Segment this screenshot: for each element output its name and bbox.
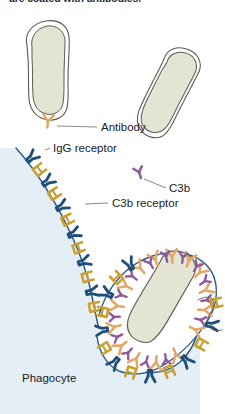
c3b-receptor — [48, 187, 61, 199]
c3b-receptor — [61, 214, 74, 226]
label-c3b: C3b — [169, 182, 190, 194]
bacterium-free-upper-left — [26, 21, 69, 129]
leader-c3b — [144, 179, 166, 188]
leader-c3b-receptor — [85, 203, 108, 204]
c3b-receptor — [97, 307, 109, 317]
label-c3b-receptor: C3b receptor — [112, 197, 179, 209]
leader-antibody — [57, 126, 97, 127]
c3b-receptor — [33, 163, 46, 176]
diagram-canvas: Antibody IgG receptor C3b C3b receptor P… — [0, 0, 225, 414]
c3b-molecule — [133, 166, 145, 179]
igg-receptor — [55, 199, 70, 213]
label-antibody: Antibody — [101, 121, 146, 133]
c3b-receptor — [72, 242, 84, 253]
phagosome-region — [95, 244, 222, 382]
label-phagocyte: Phagocyte — [22, 372, 76, 384]
label-igg-receptor: IgG receptor — [53, 142, 117, 154]
antibody-molecule — [42, 114, 54, 128]
leader-igg-receptor — [45, 148, 50, 150]
phagocytosis-opsonization-diagram: are coated with antibodies. — [0, 0, 225, 414]
bacterium-body — [32, 26, 65, 114]
c3b-receptor — [82, 272, 94, 283]
